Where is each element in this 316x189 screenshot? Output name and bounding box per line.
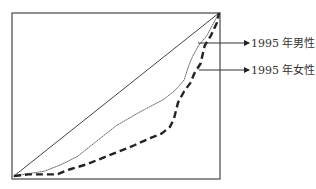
plot-frame: [12, 13, 220, 179]
female-callout: 1995 年女性: [199, 63, 316, 77]
lorenz-chart: 1995 年男性 1995 年女性: [0, 0, 316, 189]
equality-line-line: [14, 13, 219, 176]
male-callout: 1995 年男性: [198, 36, 316, 50]
female-legend-label: 1995 年女性: [251, 63, 316, 77]
male-legend-label: 1995 年男性: [251, 36, 316, 50]
series-layer: [14, 13, 219, 176]
